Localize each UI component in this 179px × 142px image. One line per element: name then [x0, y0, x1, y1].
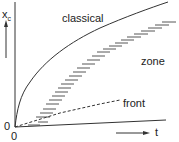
diagram: xc t 0 0 classical zone front	[0, 0, 179, 142]
origin-x-label: 0	[11, 131, 17, 142]
zone-hatching	[28, 22, 176, 125]
y-axis-label-subscript: c	[8, 15, 12, 22]
x-axis-label: t	[155, 127, 158, 138]
classical-label: classical	[62, 13, 104, 24]
origin-y-label: 0	[4, 121, 10, 132]
t-arrow-icon	[116, 131, 150, 135]
zone-label: zone	[141, 56, 165, 67]
y-axis-label: xc	[2, 9, 11, 24]
x-axis	[15, 120, 166, 127]
front-label: front	[123, 98, 145, 109]
y-arrow-icon	[4, 20, 8, 58]
